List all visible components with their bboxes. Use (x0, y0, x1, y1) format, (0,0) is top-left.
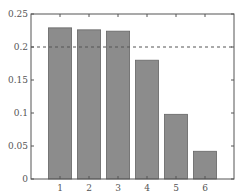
x-tick-label: 4 (144, 183, 150, 193)
bar (106, 31, 129, 179)
bar (164, 114, 187, 179)
x-tick-label: 3 (115, 183, 121, 193)
bar (193, 151, 216, 179)
bar (77, 30, 100, 179)
bar (135, 60, 158, 179)
x-tick-label: 6 (202, 183, 208, 193)
y-tick-label: 0 (22, 174, 28, 184)
y-tick-label: 0.2 (14, 42, 28, 52)
x-tick-label: 1 (57, 183, 63, 193)
y-tick-label: 0.15 (8, 75, 28, 85)
y-tick-label: 0.25 (8, 9, 28, 19)
y-tick-label: 0.1 (14, 108, 28, 118)
bar-chart: 00.050.10.150.20.25 123456 (0, 0, 247, 194)
y-tick-label: 0.05 (8, 141, 28, 151)
bars (48, 28, 216, 179)
bar (48, 28, 71, 179)
x-tick-label: 2 (86, 183, 92, 193)
x-tick-label: 5 (173, 183, 179, 193)
